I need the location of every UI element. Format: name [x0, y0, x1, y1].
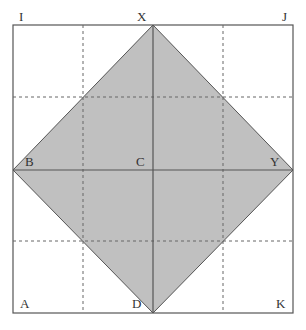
label-I: I — [19, 9, 23, 24]
geometry-diagram: I X J B C Y A D K — [0, 0, 306, 330]
label-K: K — [276, 296, 286, 311]
label-X: X — [137, 9, 147, 24]
label-B: B — [25, 154, 34, 169]
label-D: D — [132, 296, 141, 311]
label-Y: Y — [270, 154, 280, 169]
label-C: C — [136, 154, 145, 169]
label-J: J — [282, 9, 287, 24]
label-A: A — [20, 296, 30, 311]
